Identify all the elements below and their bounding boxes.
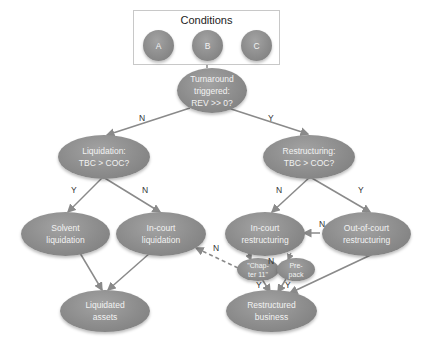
in-court-liquidation-node: In-court liquidation [116, 212, 206, 256]
liquidation-decision-node: Liquidation: TBC > COC? [58, 135, 150, 179]
edge-label-prepack-chapter11: N [268, 256, 274, 266]
edge-label-turnaround-restructuring: Y [268, 113, 274, 123]
restructuring-decision-node: Restructuring: TBC > COC? [263, 135, 355, 179]
condition-c-node: C [241, 30, 272, 61]
edge-label-prepack-restructured: Y [285, 280, 291, 290]
edge-label-restructuring-outofcourt: Y [358, 185, 364, 195]
out-of-court-restructuring-node: Out-of-court restructuring [322, 212, 411, 256]
liquidated-assets-node: Liquidated assets [60, 290, 150, 332]
edge-label-outofcourt-incourt: N [319, 219, 325, 229]
pre-pack-node: Pre- pack [277, 258, 315, 281]
edge-label-liquidation-incourt: N [142, 185, 148, 195]
decision-flow-diagram: Conditions A B C Turnaround triggered: R… [0, 0, 436, 353]
edge-label-chapter11-incourt-liquidation: N [213, 243, 219, 253]
edge-label-liquidation-solvent: Y [71, 185, 77, 195]
solvent-liquidation-node: Solvent liquidation [21, 212, 110, 256]
edge-label-turnaround-liquidation: N [139, 113, 145, 123]
edge-label-restructuring-incourt: N [276, 185, 282, 195]
restructured-business-node: Restructured business [226, 290, 317, 332]
condition-a-node: A [143, 30, 174, 61]
edge-label-chapter11-restructured: Y [256, 280, 262, 290]
conditions-title: Conditions [134, 14, 279, 26]
condition-b-node: B [192, 30, 223, 61]
turnaround-triggered-node: Turnaround triggered: REV >> 0? [177, 68, 247, 113]
in-court-restructuring-node: In-court restructuring [225, 212, 305, 256]
